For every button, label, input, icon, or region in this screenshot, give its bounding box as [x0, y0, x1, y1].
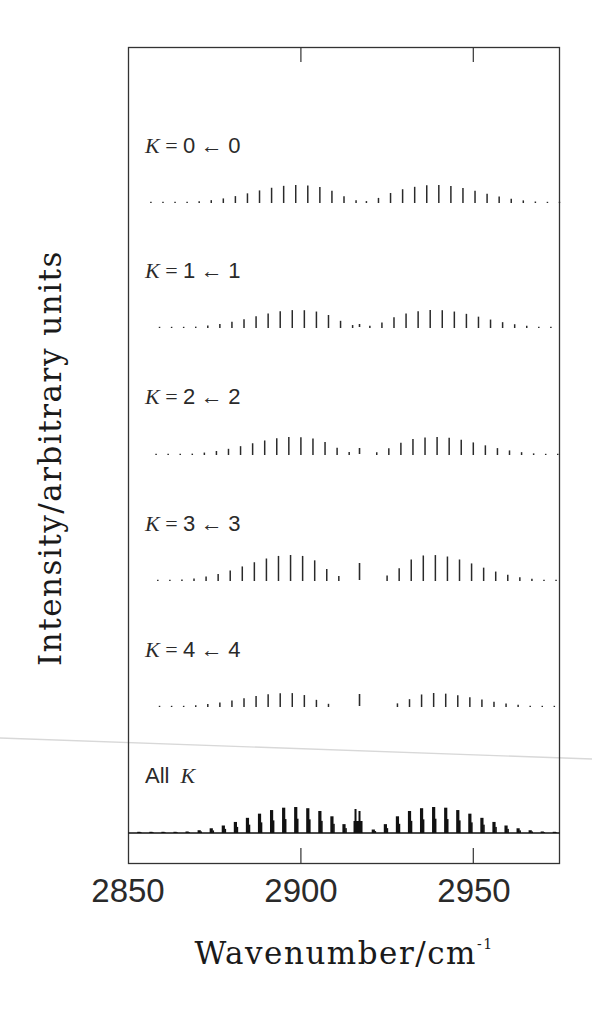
spectrum-k0	[151, 185, 560, 203]
axis-ticks	[301, 48, 473, 864]
plot-frame	[129, 48, 560, 864]
x-tick-label-2950: 2950	[437, 872, 510, 910]
x-axis-label-unit-exponent: -1	[477, 936, 494, 952]
series-label-k1: K = 1 ← 1	[145, 258, 241, 284]
spectrum-k4	[160, 693, 555, 707]
series-label-all-k: All K	[145, 763, 195, 789]
series-label-k4: K = 4 ← 4	[145, 637, 241, 663]
series-label-k0: K = 0 ← 0	[145, 133, 241, 159]
x-tick-label-2900: 2900	[264, 872, 337, 910]
spectrum-all-k	[129, 807, 560, 833]
x-axis-label-text: Wavenumber/cm	[194, 935, 477, 971]
spectrum-k2	[156, 437, 558, 455]
series-label-k3: K = 3 ← 3	[145, 511, 241, 537]
x-axis-label: Wavenumber/cm-1	[194, 935, 493, 971]
spectrum-k1	[160, 310, 551, 328]
x-tick-label-2850: 2850	[91, 872, 164, 910]
y-axis-label: Intensity/arbitrary units	[32, 250, 68, 666]
spectrum-k3	[158, 555, 556, 581]
scan-artifact-line	[0, 738, 592, 759]
spectrum-figure	[0, 0, 592, 1011]
series-label-k2: K = 2 ← 2	[145, 384, 241, 410]
